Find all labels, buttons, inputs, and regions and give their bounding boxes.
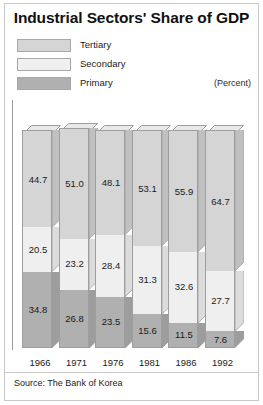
bar-value-primary-1976: 23.5 [96, 316, 126, 327]
bar-value-secondary-1976: 28.4 [96, 260, 126, 271]
chart-container: Industrial Sectors' Share of GDP Tertiar… [0, 0, 263, 405]
bar-top-face-1976 [95, 121, 134, 130]
bar-segment-primary-1976[interactable]: 23.5 [95, 297, 125, 348]
bar-value-primary-1992: 7.6 [206, 334, 236, 345]
bar-value-primary-1986: 11.5 [169, 329, 199, 340]
bar-value-primary-1971: 26.8 [60, 313, 90, 324]
x-axis-label-1992: 1992 [203, 357, 243, 368]
bar-stack-1986: 55.932.611.5 [168, 130, 198, 348]
bar-segment-primary-1966[interactable]: 34.8 [22, 272, 52, 348]
bar-segment-tertiary-1986[interactable]: 55.9 [168, 130, 198, 252]
bar-group-1966[interactable]: 44.720.534.81966 [22, 0, 61, 405]
bar-group-1986[interactable]: 55.932.611.51986 [168, 0, 207, 405]
bar-segment-tertiary-1981[interactable]: 53.1 [132, 130, 162, 246]
bar-top-face-1981 [132, 121, 171, 130]
bar-value-primary-1981: 15.6 [133, 325, 163, 336]
source-divider [5, 372, 258, 373]
x-axis-label-1966: 1966 [20, 357, 60, 368]
y-axis-line [12, 100, 13, 350]
bar-value-tertiary-1992: 64.7 [206, 196, 236, 207]
bar-value-primary-1966: 34.8 [23, 304, 53, 315]
bar-segment-secondary-1986[interactable]: 32.6 [168, 252, 198, 323]
bar-segment-tertiary-1992[interactable]: 64.7 [205, 130, 235, 271]
bar-group-1971[interactable]: 51.023.226.81971 [59, 0, 98, 405]
bar-value-tertiary-1971: 51.0 [60, 178, 90, 189]
bar-segment-secondary-1971[interactable]: 23.2 [59, 239, 89, 290]
bar-top-face-1971 [59, 119, 98, 128]
bar-value-tertiary-1966: 44.7 [23, 174, 53, 185]
bar-segment-tertiary-1971[interactable]: 51.0 [59, 128, 89, 239]
bar-top-face-1992 [205, 121, 244, 130]
source-note: Source: The Bank of Korea [14, 378, 122, 388]
bar-value-secondary-1992: 27.7 [206, 295, 236, 306]
bar-segment-secondary-1992[interactable]: 27.7 [205, 271, 235, 331]
plot-area: 44.720.534.8196651.023.226.8197148.128.4… [0, 0, 263, 405]
bar-segment-secondary-1966[interactable]: 20.5 [22, 227, 52, 272]
bar-top-face-1986 [168, 121, 207, 130]
bar-stack-1992: 64.727.77.6 [205, 130, 235, 348]
bar-side-face-tertiary-1992 [235, 130, 244, 271]
bar-value-secondary-1981: 31.3 [133, 274, 163, 285]
bar-segment-tertiary-1976[interactable]: 48.1 [95, 130, 125, 235]
bar-segment-primary-1992[interactable]: 7.6 [205, 331, 235, 348]
bar-stack-1976: 48.128.423.5 [95, 130, 125, 348]
x-axis-label-1986: 1986 [166, 357, 206, 368]
x-axis-label-1976: 1976 [93, 357, 133, 368]
bar-segment-secondary-1981[interactable]: 31.3 [132, 246, 162, 314]
bar-top-face-1966 [22, 121, 61, 130]
bar-stack-1966: 44.720.534.8 [22, 130, 52, 348]
bar-side-face-secondary-1992 [235, 271, 244, 331]
bar-value-secondary-1986: 32.6 [169, 281, 199, 292]
bar-side-face-primary-1992 [235, 331, 244, 348]
bar-value-tertiary-1981: 53.1 [133, 183, 163, 194]
bar-segment-primary-1971[interactable]: 26.8 [59, 290, 89, 348]
x-axis-label-1971: 1971 [57, 357, 97, 368]
bar-group-1981[interactable]: 53.131.315.61981 [132, 0, 171, 405]
bar-stack-1971: 51.023.226.8 [59, 128, 89, 348]
bar-stack-1981: 53.131.315.6 [132, 130, 162, 348]
bar-group-1976[interactable]: 48.128.423.51976 [95, 0, 134, 405]
x-axis-label-1981: 1981 [130, 357, 170, 368]
bar-segment-tertiary-1966[interactable]: 44.7 [22, 130, 52, 227]
bar-segment-primary-1986[interactable]: 11.5 [168, 323, 198, 348]
bar-segment-secondary-1976[interactable]: 28.4 [95, 235, 125, 297]
bar-value-secondary-1966: 20.5 [23, 244, 53, 255]
bar-value-secondary-1971: 23.2 [60, 258, 90, 269]
bar-segment-primary-1981[interactable]: 15.6 [132, 314, 162, 348]
bar-value-tertiary-1976: 48.1 [96, 177, 126, 188]
bar-group-1992[interactable]: 64.727.77.61992 [205, 0, 244, 405]
bar-value-tertiary-1986: 55.9 [169, 186, 199, 197]
